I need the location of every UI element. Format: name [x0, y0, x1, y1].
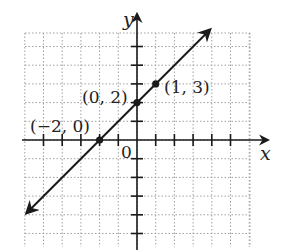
origin-label: 0: [121, 144, 132, 161]
point-label-neg2-0: (−2, 0): [30, 118, 90, 135]
coordinate-plane: y x 0 (−2, 0) (0, 2) (1, 3): [0, 0, 284, 250]
point-label-1-3: (1, 3): [164, 79, 210, 96]
x-axis-label: x: [260, 144, 271, 163]
y-axis-label: y: [123, 10, 134, 29]
point-label-0-2: (0, 2): [82, 89, 128, 106]
